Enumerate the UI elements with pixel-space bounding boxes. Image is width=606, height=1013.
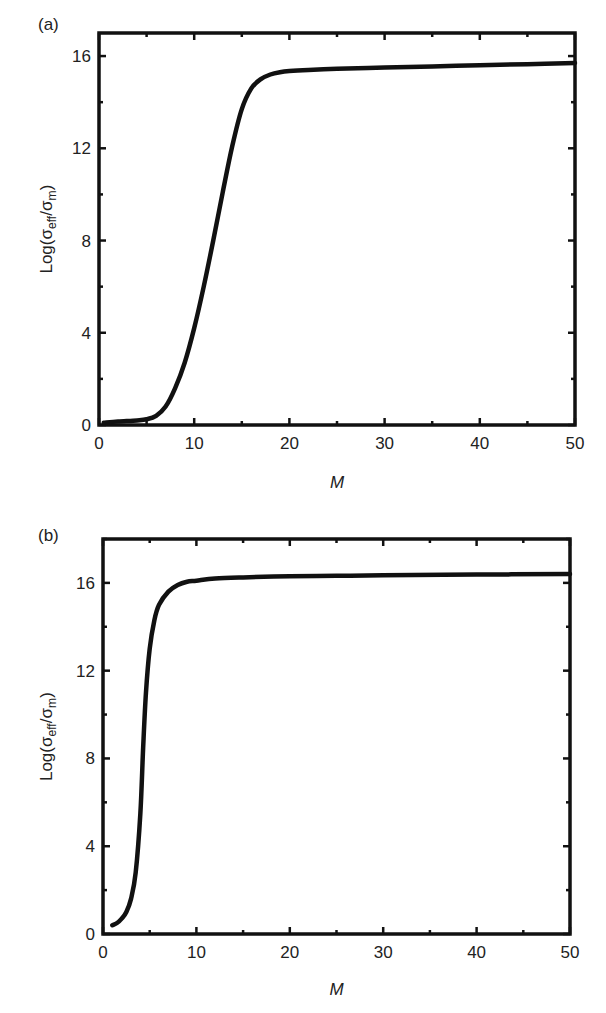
y-axis-title: Log(σeff /σm ) (37, 184, 59, 273)
x-tick-label: 20 (280, 434, 299, 453)
y-tick-label: 0 (82, 416, 91, 435)
x-tick-label: 50 (561, 943, 580, 962)
x-tick-label: 40 (467, 943, 486, 962)
panel-label: (b) (38, 526, 59, 545)
x-tick-label: 10 (185, 434, 204, 453)
x-axis: 01020304050 (94, 33, 584, 453)
y-tick-label: 12 (76, 662, 95, 681)
data-curve (112, 574, 570, 925)
x-tick-label: 40 (470, 434, 489, 453)
y-axis: 0481216 (72, 47, 575, 435)
x-axis-title: M (330, 473, 345, 492)
y-tick-label: 8 (86, 749, 95, 768)
plot-frame (103, 539, 570, 934)
x-tick-label: 30 (375, 434, 394, 453)
y-axis: 0481216 (76, 539, 570, 944)
x-axis: 01020304050 (98, 539, 579, 962)
x-tick-label: 20 (280, 943, 299, 962)
x-tick-label: 30 (374, 943, 393, 962)
y-tick-label: 4 (82, 324, 91, 343)
plot-frame (99, 33, 575, 425)
y-tick-label: 16 (76, 574, 95, 593)
y-tick-label: 8 (82, 232, 91, 251)
y-tick-label: 12 (72, 139, 91, 158)
y-tick-label: 0 (86, 925, 95, 944)
x-tick-label: 10 (187, 943, 206, 962)
chart-panel-a: (a)010203040500481216MLog(σeff /σm ) (0, 0, 606, 500)
y-axis-title: Log(σeff /σm ) (37, 692, 59, 781)
x-tick-label: 0 (94, 434, 103, 453)
y-tick-label: 4 (86, 837, 95, 856)
chart-a-svg: (a)010203040500481216MLog(σeff /σm ) (0, 0, 606, 500)
data-curve (104, 63, 575, 423)
x-tick-label: 50 (566, 434, 585, 453)
x-axis-title: M (329, 980, 344, 999)
chart-panel-b: (b)010203040500481216MLog(σeff /σm ) (0, 505, 606, 1013)
x-tick-label: 0 (98, 943, 107, 962)
panel-label: (a) (38, 15, 59, 34)
chart-b-svg: (b)010203040500481216MLog(σeff /σm ) (0, 505, 606, 1013)
y-tick-label: 16 (72, 47, 91, 66)
